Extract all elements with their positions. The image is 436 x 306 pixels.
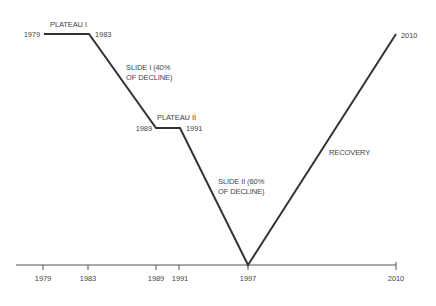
point-label-1983: 1983 bbox=[95, 30, 111, 39]
annotation-slide-1-line1: SLIDE I (40% bbox=[126, 63, 171, 72]
point-label-2010: 2010 bbox=[401, 31, 417, 40]
annotation-slide-2-line2: OF DECLINE) bbox=[218, 187, 265, 196]
annotation-slide-2-line1: SLIDE II (60% bbox=[218, 177, 265, 186]
annotation-slide-1-line2: OF DECLINE) bbox=[126, 73, 173, 82]
annotation-plateau-1: PLATEAU I bbox=[50, 20, 87, 29]
decline-recovery-chart: 1979 1983 1989 1991 1997 2010 1979 1983 … bbox=[0, 0, 436, 306]
x-tick-label-2010: 2010 bbox=[388, 274, 404, 283]
x-tick-label-1983: 1983 bbox=[80, 274, 96, 283]
point-label-1991: 1991 bbox=[186, 124, 202, 133]
annotation-recovery: RECOVERY bbox=[329, 148, 370, 157]
x-tick-label-1979: 1979 bbox=[35, 274, 51, 283]
x-tick-label-1989: 1989 bbox=[148, 274, 164, 283]
x-tick-label-1991: 1991 bbox=[172, 274, 188, 283]
point-label-1979: 1979 bbox=[24, 30, 40, 39]
point-label-1989: 1989 bbox=[136, 124, 152, 133]
annotation-plateau-2: PLATEAU II bbox=[157, 113, 196, 122]
x-tick-label-1997: 1997 bbox=[240, 274, 256, 283]
